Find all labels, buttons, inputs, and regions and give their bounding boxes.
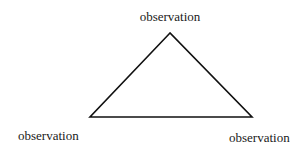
vertex-label-top: observation — [140, 10, 201, 23]
vertex-label-bottom-left: observation — [18, 129, 79, 142]
triangle-diagram: observation observation observation — [0, 0, 308, 147]
vertex-label-bottom-right: observation — [229, 131, 290, 144]
triangle-outline — [90, 33, 252, 117]
